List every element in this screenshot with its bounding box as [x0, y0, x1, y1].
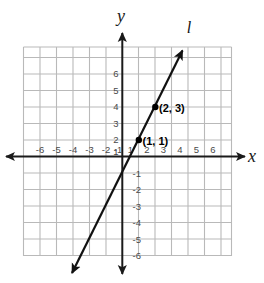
x-tick-label: 6	[210, 144, 215, 155]
y-tick-label: 1	[113, 146, 118, 157]
x-tick-label: -6	[36, 144, 44, 155]
y-tick-label: 3	[113, 118, 118, 129]
y-tick-label: 6	[113, 68, 118, 79]
x-tick-label: -3	[85, 144, 93, 155]
coordinate-plane-figure: y x -6 -5 -4 -3 -2 -1 1 2 3 4 5 6 6 5 4 …	[0, 0, 264, 283]
x-tick-label: -2	[102, 144, 110, 155]
graph-canvas: y x -6 -5 -4 -3 -2 -1 1 2 3 4 5 6 6 5 4 …	[0, 0, 264, 283]
x-tick-label: 4	[177, 144, 182, 155]
x-tick-label: 5	[194, 144, 199, 155]
x-tick-label: -5	[52, 144, 60, 155]
y-tick-label: 2	[113, 134, 118, 145]
y-tick-label: -6	[133, 250, 141, 261]
data-point-label-2-3: (2, 3)	[159, 102, 185, 114]
line-label-l: l	[187, 19, 192, 36]
y-tick-label: -5	[133, 234, 141, 245]
x-tick-label: -4	[69, 144, 77, 155]
y-tick-label: 5	[113, 85, 118, 96]
data-point-2-3	[152, 104, 158, 110]
y-tick-label: -4	[133, 217, 141, 228]
data-point-1-1	[136, 137, 142, 143]
y-axis-label: y	[115, 6, 125, 26]
y-tick-label: -2	[133, 184, 141, 195]
x-axis-label: x	[247, 146, 256, 166]
y-tick-label: -1	[133, 168, 141, 179]
y-tick-label: -3	[133, 201, 141, 212]
y-tick-label: 4	[113, 101, 118, 112]
data-point-label-1-1: (1, 1)	[143, 135, 169, 147]
